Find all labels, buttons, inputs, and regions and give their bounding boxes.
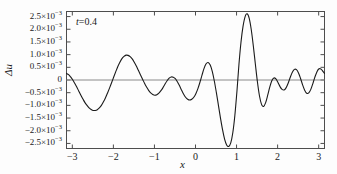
y-tick-label: 0.5×10−3 xyxy=(0,61,62,71)
y-tick-label: −1.0×10−3 xyxy=(0,99,62,109)
x-tick-label: 0 xyxy=(183,151,209,162)
y-tick-label: 2.5×10−3 xyxy=(0,11,62,21)
x-tick-label: −3 xyxy=(59,151,85,162)
x-tick-label: 1 xyxy=(224,151,250,162)
y-tick-label: −2.0×10−3 xyxy=(0,125,62,135)
x-tick-label: 2 xyxy=(265,151,291,162)
annotation-value: =0.4 xyxy=(79,16,97,27)
x-tick-label: −2 xyxy=(100,151,126,162)
y-tick-label: −0.5×10−3 xyxy=(0,87,62,97)
x-tick-label: −1 xyxy=(141,151,167,162)
y-tick-label: 0 xyxy=(0,74,62,84)
chart-figure: Δu x t=0.4 2.5×10−32.0×10−31.5×10−31.0×1… xyxy=(0,0,337,174)
annotation-time: t=0.4 xyxy=(76,16,97,27)
y-tick-label: −1.5×10−3 xyxy=(0,112,62,122)
y-tick-label: 2.0×10−3 xyxy=(0,23,62,33)
y-tick-label: 1.0×10−3 xyxy=(0,49,62,59)
y-tick-label: 1.5×10−3 xyxy=(0,36,62,46)
x-tick-label: 3 xyxy=(306,151,332,162)
y-tick-label: −2.5×10−3 xyxy=(0,137,62,147)
